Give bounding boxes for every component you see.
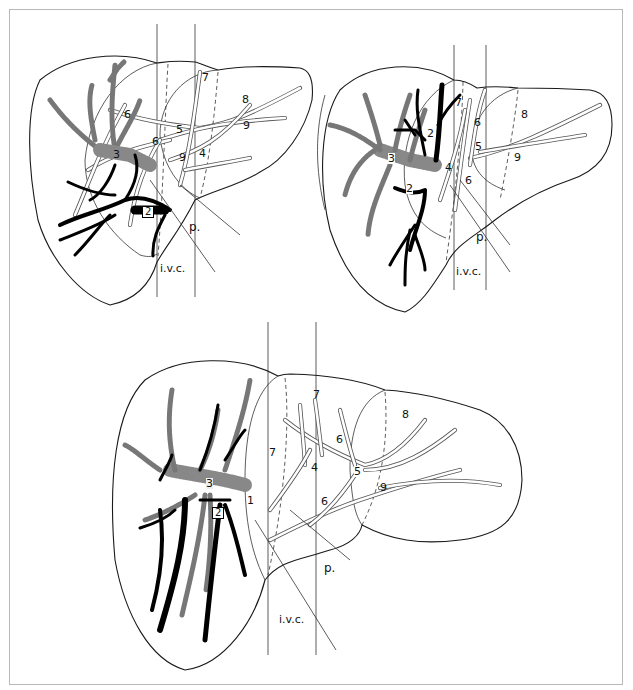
label-1: 1	[247, 495, 254, 506]
label-8: 8	[521, 109, 528, 120]
light-vessels	[440, 90, 600, 210]
hatched-vessels	[125, 380, 250, 615]
label-3: 3	[113, 149, 120, 160]
label-9: 9	[380, 482, 387, 493]
label-9: 9	[179, 152, 186, 163]
label-ivc: i.v.c.	[279, 614, 304, 625]
liver-diagram	[0, 0, 633, 690]
label-8: 8	[402, 409, 409, 420]
label-6: 6	[465, 175, 472, 186]
black-vessels	[140, 405, 245, 640]
label-portal: p.	[189, 221, 200, 233]
label-7: 7	[313, 389, 320, 400]
label-7: 7	[202, 72, 209, 83]
label-6: 6	[474, 117, 481, 128]
label-9: 9	[514, 152, 521, 163]
light-vessels	[270, 400, 500, 540]
label-6: 6	[152, 136, 159, 147]
label-5: 5	[354, 466, 361, 477]
label-7: 7	[455, 97, 462, 108]
label-2-boxed: 2	[142, 206, 154, 218]
label-6: 6	[124, 109, 131, 120]
label-3: 3	[206, 478, 213, 489]
label-4: 4	[445, 162, 452, 173]
label-portal: p.	[324, 562, 335, 574]
label-ivc: i.v.c.	[160, 263, 185, 274]
label-3: 3	[388, 153, 395, 164]
label-5: 5	[475, 141, 482, 152]
label-5: 5	[176, 124, 183, 135]
label-portal: p.	[476, 231, 487, 243]
view-bottom	[113, 322, 522, 670]
label-4: 4	[199, 148, 206, 159]
label-2: 2	[406, 183, 413, 194]
label-2-boxed: 2	[212, 507, 224, 519]
label-6: 6	[336, 434, 343, 445]
label-4: 4	[311, 462, 318, 473]
label-7: 7	[269, 447, 276, 458]
label-2: 2	[427, 128, 434, 139]
label-ivc: i.v.c.	[456, 266, 481, 277]
label-6: 6	[321, 496, 328, 507]
label-8: 8	[242, 94, 249, 105]
label-9: 9	[243, 120, 250, 131]
